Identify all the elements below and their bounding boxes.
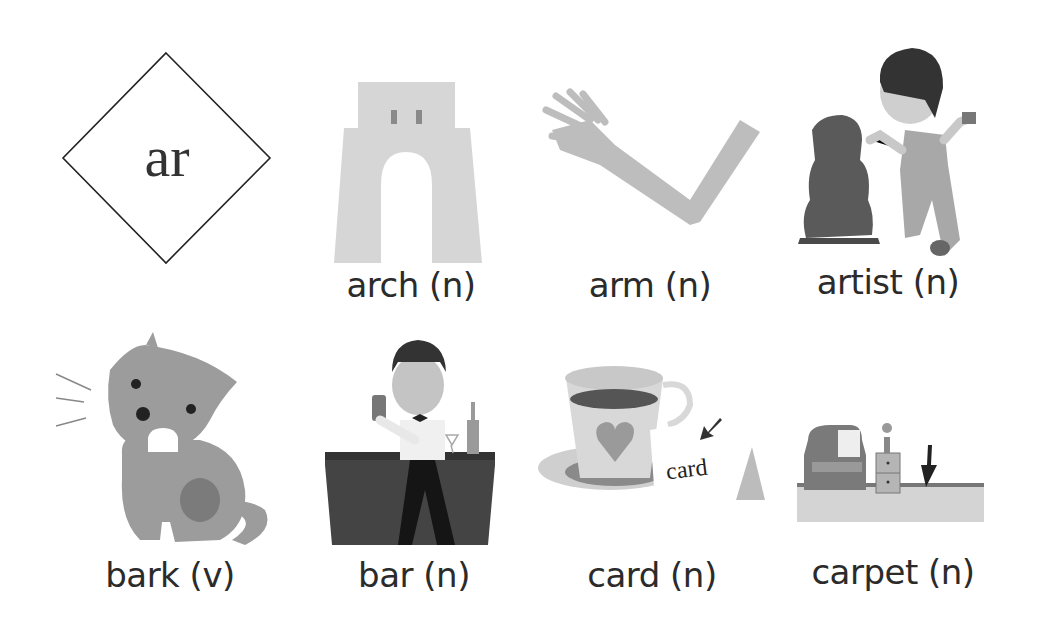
carpet-room-picture [0,0,1038,620]
word-label-carpet: carpet (n) [811,552,974,592]
